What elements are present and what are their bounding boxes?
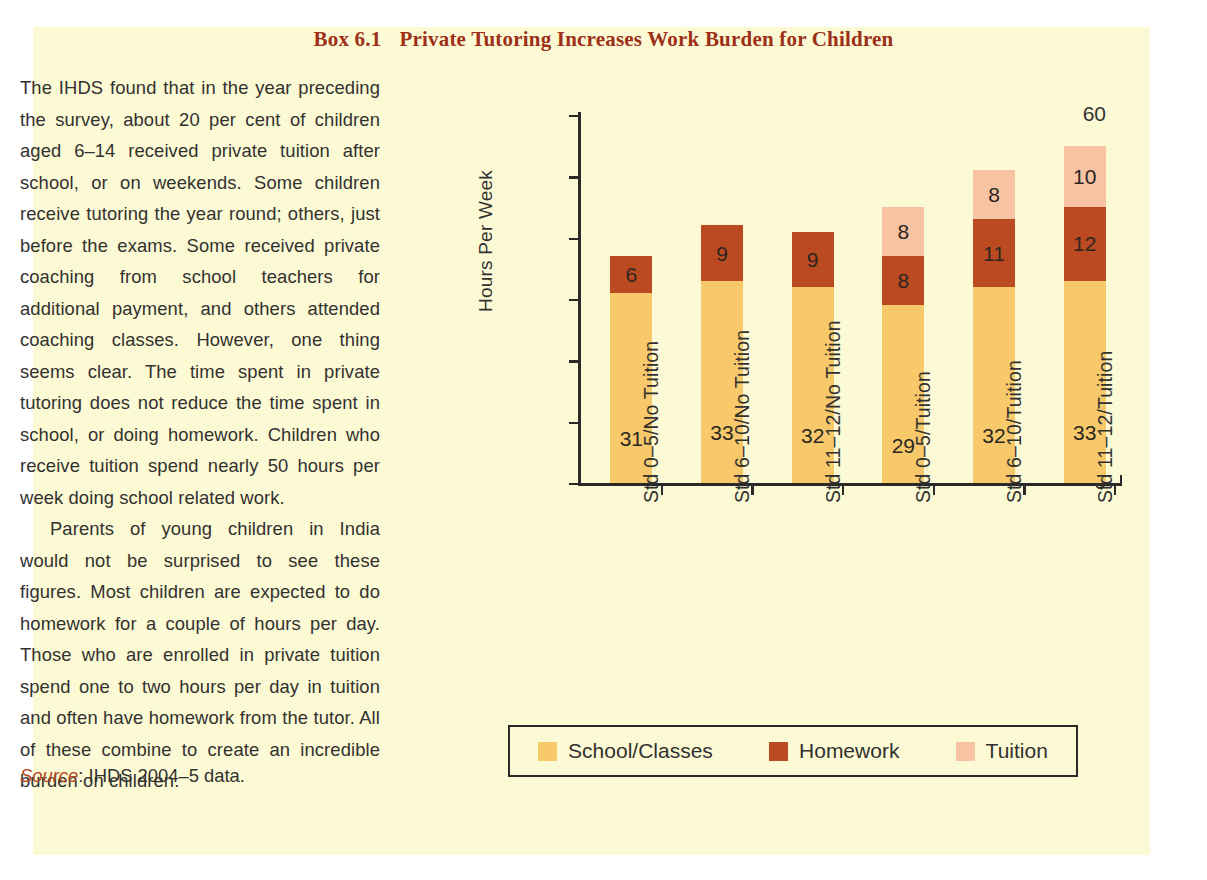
legend-swatch-icon: [769, 742, 788, 761]
bar-segment-homework[interactable]: 12: [1064, 207, 1106, 281]
chart-region: Hours Per Week 0102030405060 63193393288…: [410, 60, 1110, 800]
y-axis-tick: [569, 483, 578, 485]
x-axis-category-label: Std 6–10/No Tuition: [731, 330, 754, 503]
bar-segment-value: 9: [716, 243, 728, 264]
x-axis-category-label: Std 6–10/Tuition: [1003, 360, 1026, 503]
bar-segment-value: 10: [1073, 166, 1096, 187]
legend-label: School/Classes: [568, 739, 713, 763]
x-axis-category-label: Std 0–5/Tuition: [912, 371, 935, 503]
bar-segment-tuition[interactable]: 8: [882, 207, 924, 256]
x-axis-category-label: Std 0–5/No Tuition: [640, 341, 663, 503]
box-title: Box 6.1Private Tutoring Increases Work B…: [0, 27, 1207, 52]
box-title-number: Box 6.1: [314, 27, 382, 51]
y-axis-tick: [569, 299, 578, 301]
legend-item[interactable]: School/Classes: [538, 739, 713, 763]
bar-segment-homework[interactable]: 8: [882, 256, 924, 305]
y-axis-line: [578, 112, 581, 483]
y-axis-tick: [569, 238, 578, 240]
legend-swatch-icon: [538, 742, 557, 761]
bar-segment-value: 8: [988, 184, 1000, 205]
legend-item[interactable]: Homework: [769, 739, 899, 763]
bar-segment-homework[interactable]: 9: [701, 225, 743, 280]
x-axis-category-label: Std 11–12/Tuition: [1094, 351, 1117, 503]
source-value: IHDS 2004–5 data.: [89, 765, 245, 786]
y-axis-tick-label: 60: [1046, 102, 1106, 126]
y-axis-tick: [569, 115, 578, 117]
y-axis-tick: [569, 422, 578, 424]
bar-segment-value: 12: [1073, 233, 1096, 254]
source-separator: :: [78, 765, 88, 786]
plot-area: 0102030405060 631933932882981132101233 S…: [578, 115, 1122, 483]
y-axis-tick: [569, 176, 578, 178]
legend-label: Homework: [799, 739, 899, 763]
bar-segment-value: 11: [983, 243, 1005, 264]
legend-item[interactable]: Tuition: [956, 739, 1048, 763]
bar-segment-homework[interactable]: 11: [973, 219, 1015, 286]
bar-segment-homework[interactable]: 9: [792, 232, 834, 287]
source-label: Source: [20, 765, 78, 786]
bar-segment-value: 8: [897, 270, 909, 291]
x-axis-category-label: Std 11–12/No Tuition: [822, 320, 845, 503]
body-paragraph-2: Parents of young children in India would…: [20, 513, 380, 797]
legend-label: Tuition: [986, 739, 1048, 763]
bar-segment-value: 32: [801, 323, 824, 446]
bar-segment-homework[interactable]: 6: [610, 256, 652, 293]
box-title-text: Private Tutoring Increases Work Burden f…: [399, 27, 893, 51]
x-axis-end-cap: [1120, 475, 1123, 486]
y-axis-tick: [569, 360, 578, 362]
chart-legend: School/ClassesHomeworkTuition: [508, 725, 1078, 777]
bar-segment-tuition[interactable]: 8: [973, 170, 1015, 219]
bar-segment-value: 33: [1073, 320, 1096, 443]
text-column: The IHDS found that in the year precedin…: [20, 72, 380, 797]
legend-swatch-icon: [956, 742, 975, 761]
bar-segment-value: 9: [807, 249, 819, 270]
bar-segment-value: 8: [897, 221, 909, 242]
body-paragraph-1: The IHDS found that in the year precedin…: [20, 72, 380, 513]
bar-segment-value: 6: [625, 264, 637, 285]
bar-segment-tuition[interactable]: 10: [1064, 146, 1106, 207]
source-line: Source: IHDS 2004–5 data.: [20, 765, 245, 787]
y-axis-title: Hours Per Week: [475, 141, 497, 341]
